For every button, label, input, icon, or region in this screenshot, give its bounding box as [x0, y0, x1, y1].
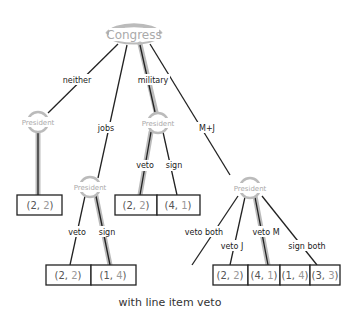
svg-text:veto M: veto M: [252, 228, 279, 237]
svg-text:(2, 2): (2, 2): [27, 200, 54, 211]
congress-label: Congress: [106, 28, 162, 42]
diagram-caption: with line item veto: [119, 296, 222, 309]
svg-text:veto: veto: [136, 161, 154, 170]
president-node-military: President: [137, 113, 179, 133]
svg-text:President: President: [234, 185, 267, 193]
svg-text:veto J: veto J: [221, 242, 244, 251]
svg-text:M+J: M+J: [199, 124, 215, 133]
svg-text:President: President: [142, 120, 175, 128]
svg-text:(1, 4): (1, 4): [100, 270, 127, 281]
svg-text:(4, 1): (4, 1): [251, 270, 278, 281]
president-node-mj: President: [229, 178, 271, 198]
svg-text:veto: veto: [68, 228, 86, 237]
svg-text:neither: neither: [63, 76, 92, 85]
svg-text:sign: sign: [99, 228, 116, 237]
svg-text:jobs: jobs: [97, 124, 114, 133]
svg-text:(1, 4): (1, 4): [282, 270, 309, 281]
svg-text:(4, 1): (4, 1): [165, 200, 192, 211]
president-node-neither: President: [17, 112, 59, 132]
svg-text:veto both: veto both: [185, 228, 223, 237]
svg-text:sign both: sign both: [288, 242, 325, 251]
svg-text:(2, 2): (2, 2): [217, 270, 244, 281]
svg-text:military: military: [138, 76, 169, 85]
svg-text:sign: sign: [166, 161, 183, 170]
svg-text:President: President: [22, 119, 55, 127]
game-tree-diagram: Congress President President President P…: [0, 0, 356, 310]
president-node-jobs: President: [69, 177, 111, 197]
svg-text:(2, 2): (2, 2): [123, 200, 150, 211]
svg-text:President: President: [74, 184, 107, 192]
svg-text:(2, 2): (2, 2): [55, 270, 82, 281]
congress-node: Congress: [106, 25, 162, 43]
svg-text:(3, 3): (3, 3): [312, 270, 339, 281]
